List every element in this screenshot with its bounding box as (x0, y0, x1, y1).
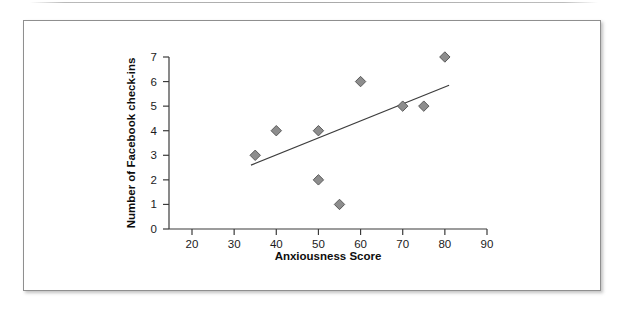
data-point-marker (271, 126, 281, 136)
y-tick-label: 4 (151, 125, 158, 137)
y-tick-label: 0 (151, 223, 157, 235)
data-point-marker (419, 101, 429, 111)
y-tick-label: 2 (151, 174, 157, 186)
data-point-marker (334, 199, 344, 209)
y-axis-tick-labels: 01234567 (151, 51, 158, 235)
x-axis-tick-labels: 2030405060708090 (186, 238, 494, 250)
data-point-marker (313, 175, 323, 185)
trend-line-group (251, 85, 449, 165)
data-point-marker (440, 52, 450, 62)
y-tick-label: 7 (151, 51, 157, 63)
x-tick-label: 20 (186, 238, 199, 250)
data-point-marker (250, 150, 260, 160)
scatter-plot: 01234567 2030405060708090 Anxiousness Sc… (24, 21, 602, 292)
chart-svg: 01234567 2030405060708090 Anxiousness Sc… (24, 21, 602, 292)
figure-frame: 01234567 2030405060708090 Anxiousness Sc… (23, 20, 601, 291)
page-top-rule (30, 2, 598, 3)
y-tick-label: 6 (151, 76, 157, 88)
y-axis-group: 01234567 (151, 51, 169, 235)
x-tick-label: 50 (312, 238, 325, 250)
x-tick-label: 60 (354, 238, 367, 250)
data-point-marker (355, 76, 365, 86)
x-tick-label: 40 (270, 238, 283, 250)
x-tick-label: 80 (438, 238, 451, 250)
data-point-marker (313, 126, 323, 136)
x-tick-label: 70 (396, 238, 409, 250)
y-tick-label: 3 (151, 149, 157, 161)
data-points-group (250, 52, 450, 210)
y-tick-label: 1 (151, 198, 157, 210)
x-axis-group: 2030405060708090 (169, 229, 493, 250)
y-axis-title: Number of Facebook check-ins (125, 58, 137, 229)
y-tick-label: 5 (151, 100, 157, 112)
regression-line (251, 85, 449, 165)
x-axis-title: Anxiousness Score (275, 250, 382, 262)
x-axis-ticks (192, 229, 487, 235)
x-tick-label: 90 (481, 238, 494, 250)
y-axis-ticks (163, 57, 169, 229)
x-tick-label: 30 (228, 238, 241, 250)
